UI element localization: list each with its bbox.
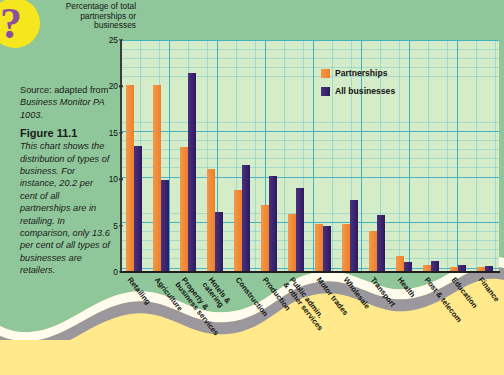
bar-all-businesses bbox=[323, 226, 331, 272]
question-mark-glyph: ? bbox=[0, 0, 22, 48]
bar-all-businesses bbox=[215, 212, 223, 272]
bar-all-businesses bbox=[188, 73, 196, 272]
chart-plot-area: Partnerships All businesses bbox=[121, 40, 499, 272]
y-axis-tick-label: 15 bbox=[104, 128, 118, 138]
bar-group bbox=[315, 224, 331, 272]
left-text-column: Source: adapted from Business Monitor PA… bbox=[20, 84, 112, 277]
y-axis-tick-label: 25 bbox=[104, 35, 118, 45]
bar-group bbox=[180, 73, 196, 272]
bar-group bbox=[261, 176, 277, 272]
bar-group bbox=[153, 85, 169, 272]
chart-legend: Partnerships All businesses bbox=[321, 68, 395, 104]
bar-partnerships bbox=[180, 147, 188, 272]
bar-partnerships bbox=[153, 85, 161, 272]
question-mark-badge-icon: ? bbox=[0, 0, 46, 54]
bar-partnerships bbox=[396, 256, 404, 272]
y-axis-title: Percentage of total partnerships or busi… bbox=[52, 2, 136, 31]
chart-bars-container bbox=[121, 40, 499, 272]
legend-swatch-all-businesses bbox=[321, 87, 330, 96]
bar-all-businesses bbox=[296, 188, 304, 272]
legend-label-partnerships: Partnerships bbox=[335, 68, 388, 78]
y-axis-tick-label: 20 bbox=[104, 81, 118, 91]
bar-partnerships bbox=[288, 214, 296, 272]
bar-group bbox=[369, 215, 385, 272]
bar-group bbox=[288, 188, 304, 272]
bar-group bbox=[126, 85, 142, 272]
y-axis-tick-label: 10 bbox=[104, 174, 118, 184]
figure-caption: This chart shows the distribution of typ… bbox=[20, 140, 112, 276]
bar-partnerships bbox=[369, 231, 377, 272]
bar-partnerships bbox=[234, 190, 242, 272]
bar-partnerships bbox=[207, 169, 215, 272]
bar-all-businesses bbox=[161, 180, 169, 272]
figure-title: Figure 11.1 bbox=[20, 127, 112, 140]
y-axis-line bbox=[120, 40, 122, 272]
bar-group bbox=[342, 200, 358, 272]
legend-label-all-businesses: All businesses bbox=[335, 86, 395, 96]
bar-partnerships bbox=[315, 224, 323, 272]
bar-group bbox=[396, 256, 412, 272]
bar-all-businesses bbox=[269, 176, 277, 272]
bar-all-businesses bbox=[242, 165, 250, 272]
legend-swatch-partnerships bbox=[321, 69, 330, 78]
bar-partnerships bbox=[342, 224, 350, 272]
bar-all-businesses bbox=[377, 215, 385, 272]
source-note: Source: adapted from Business Monitor PA… bbox=[20, 84, 112, 121]
source-italic: Business Monitor PA 1003. bbox=[20, 97, 104, 119]
x-axis-line bbox=[120, 271, 500, 273]
bar-partnerships bbox=[126, 85, 134, 272]
bar-all-businesses bbox=[350, 200, 358, 272]
bar-partnerships bbox=[261, 205, 269, 272]
bar-all-businesses bbox=[134, 146, 142, 272]
bar-group bbox=[207, 169, 223, 272]
y-axis-tick-label: 0 bbox=[104, 267, 118, 277]
source-prefix: Source: adapted from bbox=[20, 85, 108, 95]
y-axis-tick-label: 5 bbox=[104, 221, 118, 231]
legend-item-partnerships: Partnerships bbox=[321, 68, 395, 78]
bar-group bbox=[234, 165, 250, 272]
legend-item-all-businesses: All businesses bbox=[321, 86, 395, 96]
